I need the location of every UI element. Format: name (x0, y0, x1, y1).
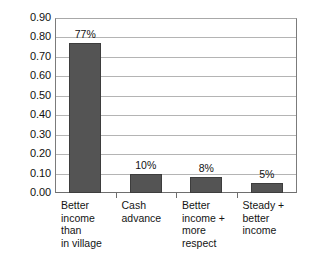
bar-value-label: 8% (199, 163, 214, 174)
bar-slot: 77% (55, 18, 116, 193)
bar-slot: 5% (237, 18, 298, 193)
x-tick (176, 193, 177, 198)
bar-slot: 10% (116, 18, 177, 193)
bars-layer: 77%10%8%5% (55, 18, 297, 193)
y-tick-label: 0.60 (3, 70, 51, 81)
y-axis: 0.900.800.700.600.500.400.300.200.100.00 (0, 0, 51, 267)
x-axis-labels: Better income than in villageCash advanc… (55, 199, 297, 263)
y-tick-label: 0.30 (3, 129, 51, 140)
bar[interactable] (69, 43, 101, 193)
x-tick (116, 193, 117, 198)
bar-value-label: 77% (75, 29, 96, 40)
x-category-label: Cash advance (122, 199, 177, 224)
bar[interactable] (190, 177, 222, 193)
x-category-label: Better income than in village (61, 199, 116, 249)
bar[interactable] (130, 174, 162, 193)
bar-value-label: 5% (259, 169, 274, 180)
bar-chart: 0.900.800.700.600.500.400.300.200.100.00… (0, 0, 314, 267)
x-category-label: Steady + better income (243, 199, 298, 237)
y-tick-label: 0.50 (3, 90, 51, 101)
y-tick-label: 0.70 (3, 51, 51, 62)
y-tick-label: 0.00 (3, 187, 51, 198)
x-axis-ticks (55, 193, 297, 198)
y-tick-label: 0.80 (3, 31, 51, 42)
y-tick-label: 0.20 (3, 148, 51, 159)
bar[interactable] (251, 183, 283, 193)
x-category-label: Better income + more respect (182, 199, 237, 249)
x-tick (237, 193, 238, 198)
y-tick-label: 0.10 (3, 168, 51, 179)
bar-value-label: 10% (135, 160, 156, 171)
bar-slot: 8% (176, 18, 237, 193)
y-tick-label: 0.40 (3, 109, 51, 120)
y-tick-label: 0.90 (3, 12, 51, 23)
